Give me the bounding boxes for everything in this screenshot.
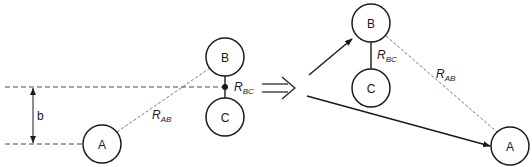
impact-parameter-arrow bbox=[30, 88, 36, 143]
center-of-mass-dot bbox=[222, 84, 228, 90]
svg-text:A: A bbox=[506, 140, 514, 154]
impact-parameter-label: b bbox=[37, 109, 44, 123]
atom-c: C bbox=[352, 69, 390, 107]
svg-text:B: B bbox=[367, 17, 375, 31]
svg-text:B: B bbox=[221, 51, 229, 65]
collision-diagram: b RAB RBC A B C RAB bbox=[0, 0, 532, 167]
transition-arrow-icon bbox=[262, 77, 295, 99]
arrow-down-icon bbox=[30, 136, 36, 143]
arrow-to-bc-icon bbox=[309, 39, 352, 75]
atom-a: A bbox=[83, 125, 121, 163]
distance-ab-label: RAB bbox=[152, 108, 172, 124]
distance-bc-label: RBC bbox=[234, 80, 254, 96]
svg-text:C: C bbox=[367, 82, 376, 96]
arrow-to-a-icon bbox=[307, 96, 490, 146]
distance-ab-label: RAB bbox=[436, 67, 456, 83]
before-configuration: b RAB RBC A B C bbox=[5, 38, 254, 163]
atom-c: C bbox=[206, 98, 244, 136]
atom-a: A bbox=[491, 127, 529, 165]
distance-bc-label: RBC bbox=[377, 48, 397, 64]
svg-text:A: A bbox=[98, 138, 106, 152]
svg-text:C: C bbox=[221, 111, 230, 125]
distance-ab-line bbox=[386, 36, 497, 132]
atom-b: B bbox=[206, 38, 244, 76]
atom-b: B bbox=[352, 4, 390, 42]
after-configuration: RAB RBC B C A bbox=[307, 4, 529, 165]
arrow-up-icon bbox=[30, 88, 36, 95]
